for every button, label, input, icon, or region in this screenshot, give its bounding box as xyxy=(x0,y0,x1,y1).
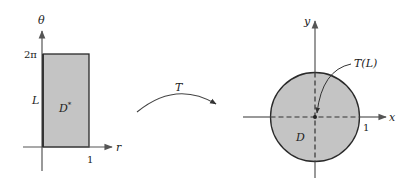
origin-point xyxy=(313,115,317,119)
mapping-label: T xyxy=(175,81,184,94)
mapping-arrow xyxy=(137,94,216,112)
tick-1-left: 1 xyxy=(87,154,93,165)
y-axis-label: y xyxy=(303,15,311,28)
image-label-t-of-l: T(L) xyxy=(354,57,377,70)
tick-2pi: 2π xyxy=(24,49,37,60)
polar-transformation-diagram: θ r 2π 1 L D* T T(L) y x 1 D xyxy=(0,0,413,188)
region-d-star xyxy=(43,54,89,147)
mapping-t: T xyxy=(137,81,216,112)
left-panel-r-theta-plane: θ r 2π 1 L D* xyxy=(23,14,122,171)
segment-l-label: L xyxy=(31,94,39,107)
theta-axis-label: θ xyxy=(38,14,45,27)
right-panel-x-y-plane: T(L) y x 1 D xyxy=(243,15,396,178)
r-axis-label: r xyxy=(116,141,122,154)
region-d-label: D xyxy=(295,131,305,144)
tick-1-right: 1 xyxy=(363,122,369,133)
x-axis-label: x xyxy=(389,111,396,124)
